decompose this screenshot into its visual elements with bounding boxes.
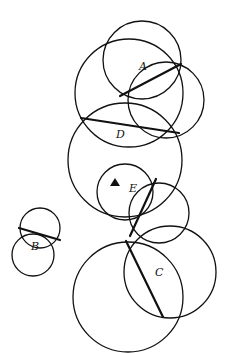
label-e: E — [128, 182, 137, 195]
chord-a — [120, 64, 181, 96]
circle-b-top — [20, 208, 60, 248]
chord-d — [81, 118, 179, 133]
triangle-marker-icon — [110, 178, 120, 186]
label-d: D — [115, 128, 125, 141]
circle-c-right — [124, 226, 216, 318]
circle-d — [68, 103, 182, 217]
circle-e — [97, 164, 153, 220]
label-c: C — [155, 266, 164, 279]
label-a: A — [138, 60, 147, 73]
circle-cluster-diagram: A D E C B — [0, 0, 227, 353]
circle-e-right — [129, 183, 189, 243]
chord-c — [126, 241, 163, 317]
label-b: B — [30, 240, 39, 253]
chord-b — [19, 228, 60, 240]
circle-c-left — [73, 242, 183, 352]
